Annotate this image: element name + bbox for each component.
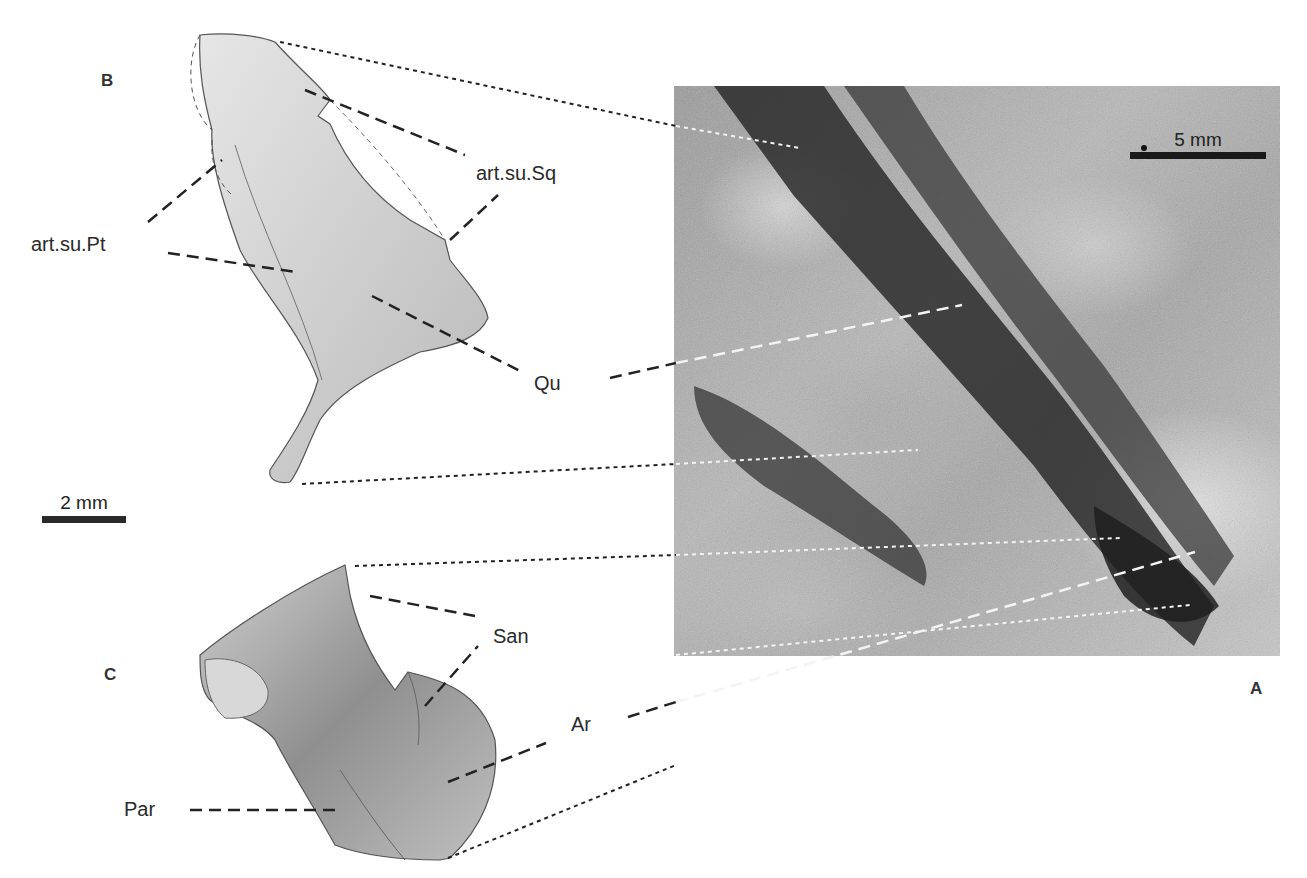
panel-letter-a: A — [1250, 679, 1262, 699]
quadrate-drawing — [191, 34, 488, 483]
articular-drawing — [200, 565, 496, 860]
figure-drawings-and-leaders — [0, 0, 1307, 878]
scale-bar-drawing-line — [42, 516, 126, 523]
label-art-su-pt: art.su.Pt — [31, 233, 105, 256]
dotted-connectors-photo — [676, 126, 1190, 655]
label-art-su-sq: art.su.Sq — [476, 162, 556, 185]
scale-bar-drawing-label: 2 mm — [42, 493, 126, 513]
label-ar: Ar — [571, 713, 591, 736]
dashed-leaders-photo — [676, 305, 1195, 702]
label-san: San — [493, 625, 529, 648]
label-par: Par — [124, 798, 155, 821]
panel-letter-b: B — [101, 71, 113, 91]
label-qu: Qu — [534, 372, 561, 395]
scale-bar-drawing: 2 mm — [42, 493, 126, 523]
panel-letter-c: C — [104, 665, 116, 685]
